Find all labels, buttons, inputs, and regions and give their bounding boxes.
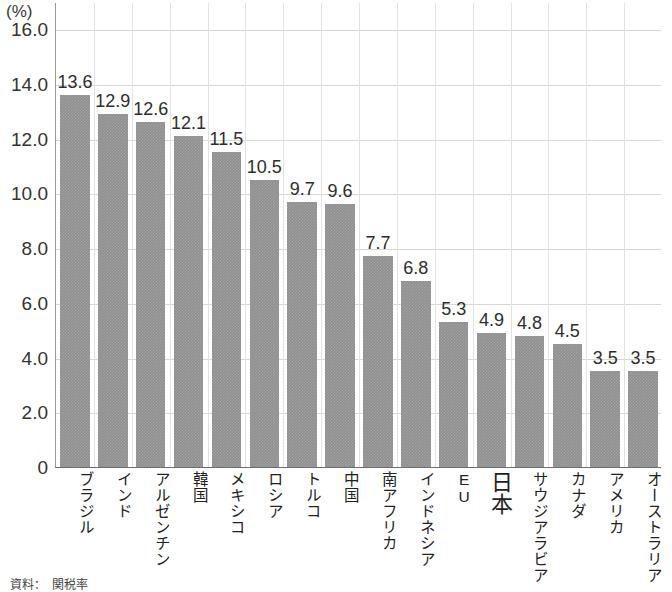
x-axis-category-label-text: インド (115, 471, 131, 519)
x-axis-category-label: インド (93, 471, 131, 519)
x-axis-category-label: ブラジル (55, 471, 93, 535)
bar-value-label: 7.7 (359, 233, 397, 254)
x-axis-category-label: メキシコ (207, 471, 245, 535)
bar-slot: 9.6 (321, 3, 359, 467)
x-axis-category-label-text: オーストラリア (646, 471, 662, 583)
gridline-horizontal (56, 468, 661, 469)
y-axis-tick-label: 12.0 (0, 129, 48, 151)
bar-value-label: 13.6 (56, 72, 94, 93)
bar[interactable] (515, 336, 545, 467)
plot-area: 13.612.912.612.111.510.59.79.67.76.85.34… (55, 3, 661, 468)
bar[interactable] (287, 202, 317, 467)
x-axis-category-label-text: 南アフリカ (380, 471, 396, 551)
x-axis-category-label-text: アメリカ (608, 471, 624, 535)
x-axis-category-label-text: トルコ (305, 471, 321, 519)
bar-value-label: 12.9 (94, 91, 132, 112)
x-axis-category-label-text: ブラジル (77, 471, 93, 535)
bar-value-label: 9.6 (321, 181, 359, 202)
footnote: 資料： 関税率 (10, 575, 88, 592)
x-axis-category-label-text: サウジアラビア (532, 471, 548, 583)
x-axis-category-label-text: カナダ (570, 471, 586, 519)
bars-layer: 13.612.912.612.111.510.59.79.67.76.85.34… (56, 3, 661, 467)
bar[interactable] (477, 333, 507, 467)
bar-slot: 7.7 (359, 3, 397, 467)
bar-slot: 11.5 (208, 3, 246, 467)
bar-value-label: 6.8 (397, 258, 435, 279)
bar[interactable] (136, 122, 166, 467)
bar-slot: 4.8 (511, 3, 549, 467)
bar[interactable] (174, 136, 204, 467)
y-axis-tick-label: 10.0 (0, 183, 48, 205)
bar-slot: 4.5 (548, 3, 586, 467)
x-axis-category-label-text: メキシコ (229, 471, 245, 535)
x-axis-category-label: カナダ (547, 471, 585, 519)
bar-value-label: 4.5 (548, 321, 586, 342)
bar-value-label: 4.9 (473, 310, 511, 331)
bar-value-label: 3.5 (624, 348, 662, 369)
bar-slot: 9.7 (283, 3, 321, 467)
bar-slot: 13.6 (56, 3, 94, 467)
bar-value-label: 10.5 (245, 157, 283, 178)
bar-value-label: 12.6 (132, 99, 170, 120)
bar[interactable] (60, 95, 90, 467)
bar-slot: 4.9 (473, 3, 511, 467)
x-axis-category-label-text: EU (456, 471, 472, 505)
x-axis-category-label: 韓国 (169, 471, 207, 503)
y-axis-tick-label: 8.0 (0, 238, 48, 260)
x-axis-category-label: 日本 (472, 471, 510, 515)
bar-value-label: 5.3 (435, 299, 473, 320)
x-axis-category-label: オーストラリア (623, 471, 661, 583)
y-axis-tick-label: 14.0 (0, 74, 48, 96)
x-axis-category-label-text: 中国 (343, 471, 359, 503)
bar-slot: 3.5 (586, 3, 624, 467)
bar-slot: 10.5 (245, 3, 283, 467)
bar[interactable] (439, 322, 469, 467)
bar-slot: 3.5 (624, 3, 662, 467)
y-axis-tick-label: 16.0 (0, 19, 48, 41)
bar-slot: 12.9 (94, 3, 132, 467)
x-axis-category-labels: ブラジルインドアルゼンチン韓国メキシコロシアトルコ中国南アフリカインドネシアEU… (55, 471, 661, 583)
bar-slot: 6.8 (397, 3, 435, 467)
x-axis-category-label: サウジアラビア (510, 471, 548, 583)
x-axis-category-label-text: ロシア (267, 471, 283, 519)
y-axis-tick-label: 4.0 (0, 348, 48, 370)
x-axis-category-label-text: 韓国 (191, 471, 207, 503)
x-axis-category-label: インドネシア (396, 471, 434, 567)
bar-value-label: 4.8 (511, 313, 549, 334)
x-axis-category-label-text: 日本 (488, 471, 510, 515)
bar[interactable] (363, 256, 393, 467)
x-axis-category-label: 南アフリカ (358, 471, 396, 551)
bar[interactable] (250, 180, 280, 467)
bar-slot: 5.3 (435, 3, 473, 467)
bar[interactable] (401, 281, 431, 467)
bar[interactable] (590, 371, 620, 467)
x-axis-category-label: アメリカ (585, 471, 623, 535)
x-axis-category-label-text: アルゼンチン (153, 471, 169, 567)
y-axis-tick-label: 0 (0, 457, 48, 479)
bar-value-label: 9.7 (283, 179, 321, 200)
y-axis-tick-label: 2.0 (0, 402, 48, 424)
x-axis-category-label: EU (434, 471, 472, 505)
x-axis-category-label: トルコ (282, 471, 320, 519)
bar[interactable] (325, 204, 355, 467)
x-axis-category-label: 中国 (320, 471, 358, 503)
y-axis-tick-label: 6.0 (0, 293, 48, 315)
bar[interactable] (98, 114, 128, 467)
x-axis-category-label: ロシア (244, 471, 282, 519)
bar-value-label: 11.5 (208, 129, 246, 150)
x-axis-category-label: アルゼンチン (131, 471, 169, 567)
bar[interactable] (628, 371, 658, 467)
bar[interactable] (212, 152, 242, 467)
bar-value-label: 12.1 (170, 113, 208, 134)
bar[interactable] (553, 344, 583, 467)
bar-slot: 12.6 (132, 3, 170, 467)
bar-slot: 12.1 (170, 3, 208, 467)
x-axis-category-label-text: インドネシア (418, 471, 434, 567)
bar-value-label: 3.5 (586, 348, 624, 369)
